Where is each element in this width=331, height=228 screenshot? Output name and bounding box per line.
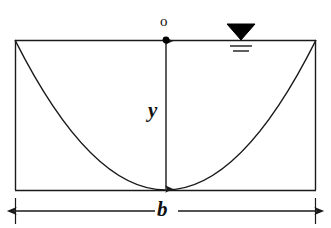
parabolic-channel-diagram: o y b [0, 0, 331, 228]
water-surface-triangle-icon [227, 24, 255, 40]
water-surface-symbol [227, 24, 255, 51]
origin-label: o [160, 14, 168, 29]
depth-dimension [163, 37, 170, 189]
width-label: b [157, 199, 168, 220]
diagram-canvas [0, 0, 331, 228]
origin-dot-icon [163, 37, 170, 44]
depth-label: y [148, 100, 157, 121]
